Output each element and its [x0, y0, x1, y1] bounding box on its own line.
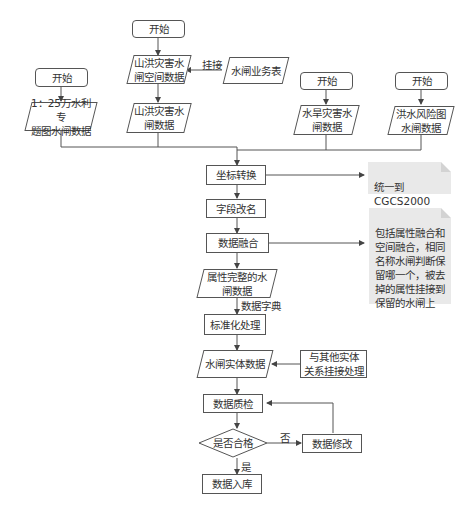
start-label: 开始: [149, 22, 169, 36]
shuihan-data: 水旱灾害水 闸数据: [297, 105, 356, 135]
start-label: 开始: [52, 71, 72, 85]
start-node-left: 开始: [35, 68, 88, 87]
shuizha-business-table: 水闸业务表: [226, 57, 286, 84]
standardize-step: 标准化处理: [204, 314, 266, 335]
field-rename-step: 字段改名: [206, 199, 266, 218]
data-fusion-step: 数据融合: [206, 233, 269, 253]
edge-label-no: 否: [280, 430, 290, 445]
data-modify-step: 数据修改: [302, 434, 362, 453]
hongshui-data: 洪水风险图 水闸数据: [391, 106, 451, 135]
edge-label-guajie: 挂接: [202, 57, 222, 72]
quality-check-step: 数据质检: [203, 394, 263, 413]
data-1-25-wan: 1：25万水利专 题图水闸数据: [28, 102, 94, 131]
attr-complete-data: 属性完整的水 闸数据: [200, 269, 274, 298]
start-label: 开始: [412, 74, 432, 88]
shanhong-spatial-data: 山洪灾害水 闸空间数据: [130, 55, 188, 84]
edge-label-yes: 是: [241, 459, 251, 474]
is-qualified-label: 是否合格: [198, 428, 268, 458]
note-cgcs2000: 统一到CGCS2000 坐标系: [368, 162, 451, 194]
start-node-right: 开始: [395, 72, 448, 90]
shanhong-data: 山洪灾害水 闸数据: [130, 103, 188, 133]
link-other-entities: 与其他实体 关系挂接处理: [300, 350, 367, 378]
start-node-top: 开始: [132, 20, 185, 38]
data-store-step: 数据入库: [202, 474, 262, 494]
edge-label-data-dict: 数据字典: [241, 298, 281, 313]
coord-transform-step: 坐标转换: [206, 165, 266, 185]
entity-data: 水闸实体数据: [200, 350, 270, 378]
note-fusion-description: 包括属性融合和 空间融合，相同 名称水闸判断保 留哪一个，被去 掉的属性挂接到 …: [369, 208, 451, 304]
start-label: 开始: [317, 74, 337, 88]
start-node-mid: 开始: [300, 72, 353, 90]
